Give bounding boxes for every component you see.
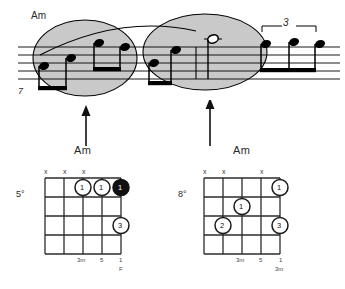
finger-label-3: 1	[118, 183, 122, 192]
arrow-to-group-1	[82, 105, 91, 146]
note-n9	[288, 37, 300, 72]
interval-label-3: 1	[279, 257, 282, 263]
arrow-to-group-2	[206, 100, 215, 146]
tuplet-number: 3	[283, 17, 289, 28]
chord-left-grid	[0, 144, 172, 289]
finger-label-2: 1	[99, 183, 103, 192]
chord-right-grid	[172, 144, 345, 289]
finger-label-2: 1	[239, 202, 243, 211]
interval-label-1: 3m	[77, 257, 85, 263]
beam-group-1	[38, 86, 67, 90]
interval-label-3: 1	[119, 257, 122, 263]
beam-triplet	[260, 68, 316, 72]
finger-label-4: 3	[118, 221, 122, 230]
interval-label-2: 5	[259, 257, 262, 263]
interval-label-2: 5	[100, 257, 103, 263]
finger-label-4: 3	[277, 221, 281, 230]
interval-label-1: 3m	[236, 257, 244, 263]
finger-label-3: 2	[220, 221, 224, 230]
music-notation-staff: Am 7 3	[0, 0, 345, 108]
beam-group-3	[148, 81, 172, 85]
phrase-ellipse-1	[33, 20, 137, 96]
measure-number: 7	[18, 86, 23, 96]
finger-label-1: 1	[80, 183, 84, 192]
connector-arrows	[0, 100, 345, 148]
chord-diagram-right: Am 8° x x x 1 1 2 3 3m 5 1 3m	[172, 144, 345, 289]
triplet-bracket	[262, 26, 316, 32]
staff-chord-label: Am	[31, 10, 46, 21]
staff-svg	[0, 0, 345, 108]
beam-group-2	[93, 67, 121, 71]
root-marker-label: 3m	[275, 266, 283, 272]
finger-label-1: 1	[277, 183, 281, 192]
root-marker-label: F	[119, 266, 123, 272]
chord-diagram-left: Am 5° x x x 1 1 1 3 3m 5 1 F	[0, 144, 172, 289]
